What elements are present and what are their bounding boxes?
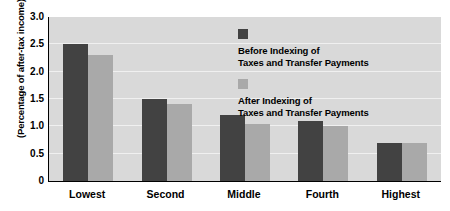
legend-label-line: Before Indexing of (238, 45, 443, 57)
legend-label-line: After Indexing of (238, 95, 443, 107)
y-tick-label: 0.5 (14, 148, 44, 160)
x-tick-label: Middle (205, 184, 283, 204)
legend-swatch (238, 29, 248, 39)
bar (298, 121, 323, 181)
bar (377, 143, 402, 181)
y-tick-label: 1.0 (14, 120, 44, 132)
legend: Before Indexing ofTaxes and Transfer Pay… (238, 27, 443, 127)
legend-entry: After Indexing ofTaxes and Transfer Paym… (238, 77, 443, 118)
x-tick-label: Highest (362, 184, 440, 204)
x-tick-label: Second (126, 184, 204, 204)
bar-chart-figure: (Percentage of after-tax income) 00.51.0… (0, 0, 450, 211)
bar-group (63, 17, 113, 181)
x-axis-tick-labels: LowestSecondMiddleFourthHighest (48, 184, 440, 206)
x-axis-line (48, 181, 441, 182)
bar (245, 124, 270, 181)
x-tick-label: Lowest (48, 184, 126, 204)
bar (402, 143, 427, 181)
legend-label: After Indexing ofTaxes and Transfer Paym… (238, 95, 443, 118)
bar (323, 126, 348, 181)
legend-entry: Before Indexing ofTaxes and Transfer Pay… (238, 27, 443, 68)
x-tick-label: Fourth (283, 184, 361, 204)
bar (88, 55, 113, 181)
y-tick-label: 3.0 (14, 11, 44, 23)
legend-swatch (238, 79, 248, 89)
bar-group (142, 17, 192, 181)
legend-label: Before Indexing ofTaxes and Transfer Pay… (238, 45, 443, 68)
legend-label-line: Taxes and Transfer Payments (238, 57, 443, 69)
bar (142, 99, 167, 181)
y-axis-tick-labels: 00.51.01.52.02.53.0 (14, 11, 44, 187)
bar (167, 104, 192, 181)
y-tick-label: 1.5 (14, 93, 44, 105)
y-tick-label: 2.0 (14, 66, 44, 78)
bar (63, 44, 88, 181)
y-tick-label: 0 (14, 175, 44, 187)
legend-label-line: Taxes and Transfer Payments (238, 107, 443, 119)
y-tick-label: 2.5 (14, 38, 44, 50)
